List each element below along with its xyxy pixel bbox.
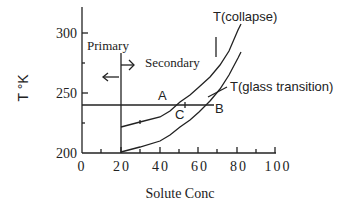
point-b-label: B <box>215 101 224 116</box>
secondary-label: Secondary <box>145 55 200 70</box>
t-glass-leader <box>208 87 227 97</box>
y-tick-label: 300 <box>56 26 77 41</box>
y-tick-label: 250 <box>56 86 77 101</box>
y-axis-title: T °K <box>15 74 31 102</box>
left-arrow-icon <box>103 73 119 81</box>
x-tick-label: 40 <box>152 159 170 174</box>
primary-label: Primary <box>87 38 129 53</box>
x-tick-label: 100 <box>265 159 292 174</box>
x-tick-label: 60 <box>191 159 209 174</box>
right-arrow-icon <box>121 60 134 70</box>
phase-diagram-chart: 200 250 300 0 20 40 60 80 100 T °K Solut… <box>0 0 339 208</box>
t-collapse-label: T(collapse) <box>213 9 277 24</box>
point-c-label: C <box>175 107 184 122</box>
point-a-label: A <box>158 88 167 103</box>
x-tick-label: 20 <box>113 159 131 174</box>
t-glass-label: T(glass transition) <box>230 79 333 94</box>
x-tick-label: 80 <box>230 159 248 174</box>
x-axis-title: Solute Conc <box>146 186 215 201</box>
y-tick-label: 200 <box>56 146 77 161</box>
x-tick-label: 0 <box>78 159 87 174</box>
